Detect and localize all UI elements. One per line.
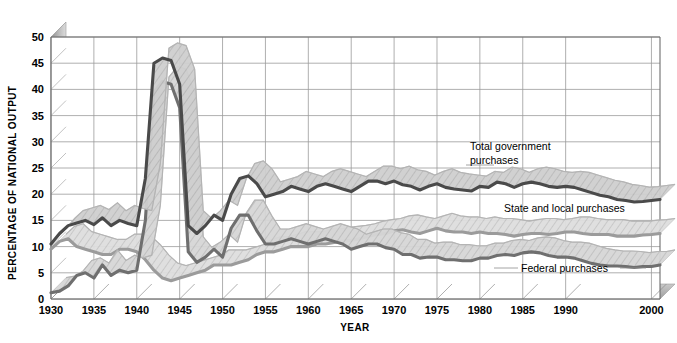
x-tick-label-1935: 1935: [82, 304, 106, 316]
annotation-state-and-local: State and local purchases: [504, 202, 625, 214]
x-tick-label-1960: 1960: [296, 304, 320, 316]
x-tick-label-1970: 1970: [382, 304, 406, 316]
x-tick-label-1990: 1990: [553, 304, 577, 316]
x-tick-label-1980: 1980: [468, 304, 492, 316]
y-tick-label-50: 50: [32, 31, 44, 43]
x-tick-label-1975: 1975: [425, 304, 449, 316]
x-tick-label-1985: 1985: [511, 304, 535, 316]
y-tick-label-20: 20: [32, 188, 44, 200]
x-axis-title: YEAR: [340, 322, 370, 333]
government-purchases-chart: 05101520253035404550 1930193519401945195…: [0, 0, 677, 343]
x-tick-label-1955: 1955: [253, 304, 277, 316]
y-tick-label-5: 5: [38, 267, 44, 279]
x-tick-label-1950: 1950: [210, 304, 234, 316]
y-tick-label-25: 25: [32, 162, 44, 174]
x-tick-label-2000: 2000: [639, 304, 663, 316]
total-government-purchases-label-line2: purchases: [470, 154, 518, 166]
federal-purchases-label: Federal purchases: [521, 262, 608, 274]
y-tick-label-40: 40: [32, 83, 44, 95]
y-tick-label-10: 10: [32, 241, 44, 253]
x-tick-label-1930: 1930: [39, 304, 63, 316]
total-government-purchases-label-line1: Total government: [470, 140, 551, 152]
y-tick-label-45: 45: [32, 57, 44, 69]
x-axis-tick-labels: 1930193519401945195019551960196519701975…: [39, 304, 664, 316]
y-axis-title: PERCENTAGE OF NATIONAL OUTPUT: [7, 86, 18, 280]
state-and-local-purchases-label: State and local purchases: [504, 202, 625, 214]
y-tick-label-15: 15: [32, 214, 44, 226]
chart-container: 05101520253035404550 1930193519401945195…: [0, 0, 677, 343]
y-tick-label-35: 35: [32, 110, 44, 122]
x-tick-label-1940: 1940: [125, 304, 149, 316]
x-tick-label-1965: 1965: [339, 304, 363, 316]
y-tick-label-30: 30: [32, 136, 44, 148]
x-tick-label-1945: 1945: [167, 304, 191, 316]
